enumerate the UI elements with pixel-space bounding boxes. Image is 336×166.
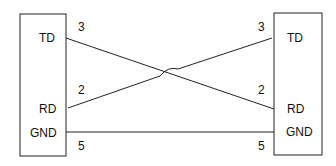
left-rd-wire-number: 2 <box>78 84 85 96</box>
right-td-label: TD <box>287 32 303 44</box>
left-gnd-wire-number: 5 <box>78 140 85 152</box>
left-td-wire-number: 3 <box>78 21 85 33</box>
null-modem-diagram <box>0 0 336 166</box>
left-td-label: TD <box>39 32 55 44</box>
right-rd-wire-number: 2 <box>258 84 265 96</box>
right-gnd-label: GND <box>286 126 313 138</box>
left-gnd-label: GND <box>30 127 57 139</box>
right-gnd-wire-number: 5 <box>258 140 265 152</box>
left-rd-label: RD <box>39 103 56 115</box>
right-rd-label: RD <box>287 103 304 115</box>
right-td-wire-number: 3 <box>258 21 265 33</box>
